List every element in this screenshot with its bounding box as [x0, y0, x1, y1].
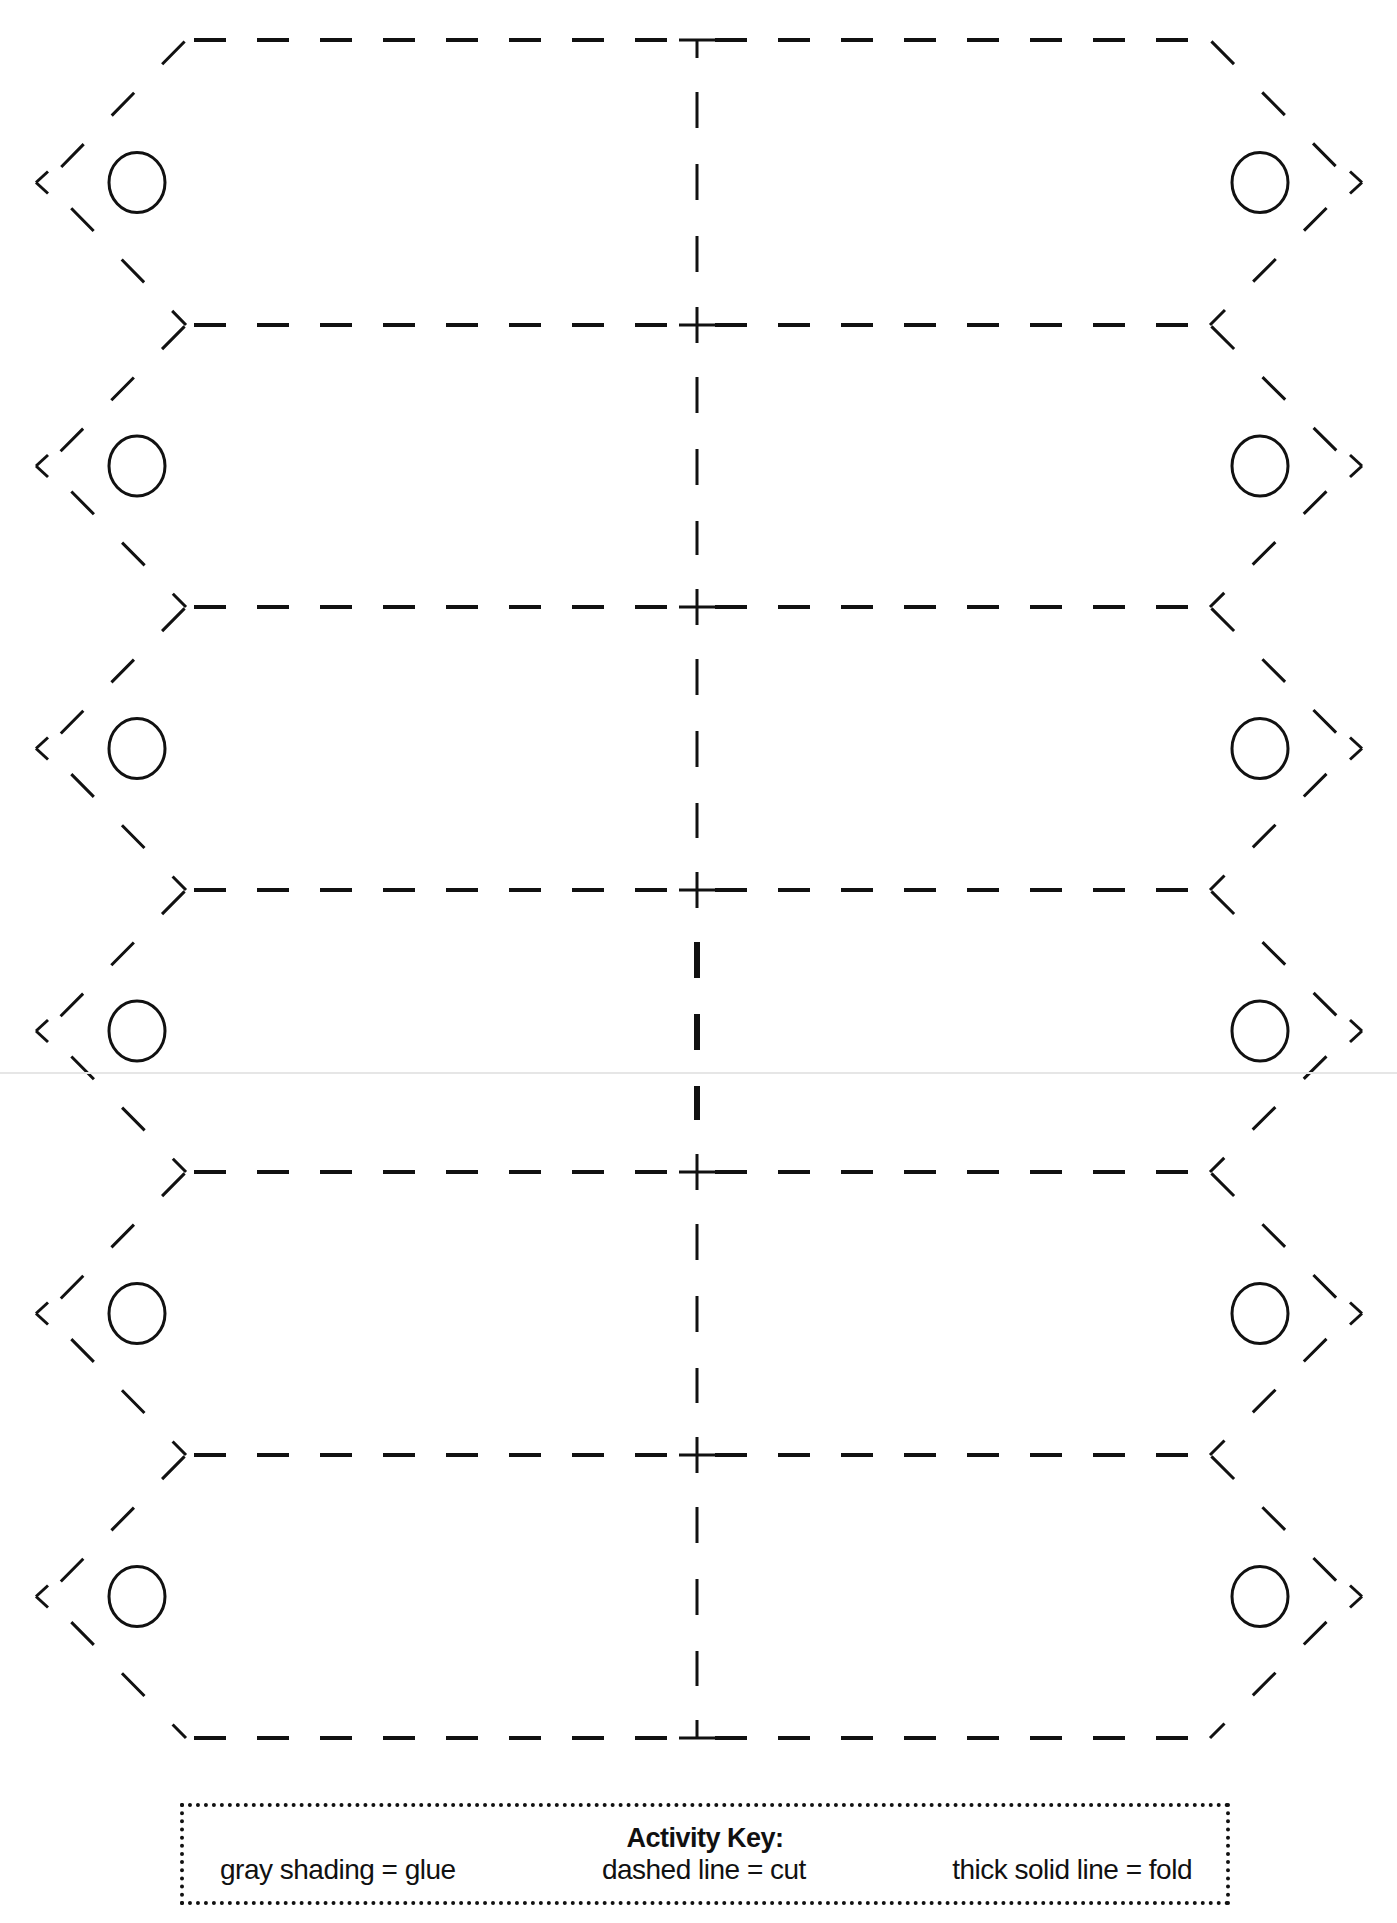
paper-crease: [0, 1072, 1397, 1074]
tag-point-left: [36, 1314, 48, 1325]
hole-circle-right: [1232, 153, 1288, 213]
hole-circle-left: [109, 719, 165, 779]
tag-point-left: [36, 1031, 48, 1042]
activity-key-box: Activity Key: gray shading = glue dashed…: [180, 1803, 1230, 1905]
tag-point-right: [1350, 1303, 1362, 1314]
tag-point-left: [36, 183, 48, 194]
tag-point-left: [36, 172, 48, 183]
key-fold: thick solid line = fold: [952, 1853, 1192, 1887]
tag-template-sheet: [0, 0, 1397, 1923]
tag-point-right: [1350, 172, 1362, 183]
hole-circle-left: [109, 1284, 165, 1344]
activity-key-legend: gray shading = glue dashed line = cut th…: [184, 1853, 1226, 1887]
tag-point-left: [36, 1586, 48, 1597]
hole-circle-left: [109, 436, 165, 496]
tag-point-left: [36, 466, 48, 477]
tag-point-right: [1350, 738, 1362, 749]
tag-point-right: [1350, 1586, 1362, 1597]
tag-point-left: [36, 1597, 48, 1608]
hole-circle-right: [1232, 1567, 1288, 1627]
tag-point-right: [1350, 183, 1362, 194]
tag-point-left: [36, 1020, 48, 1031]
tag-point-left: [36, 455, 48, 466]
hole-circle-left: [109, 153, 165, 213]
hole-circle-right: [1232, 1284, 1288, 1344]
tag-point-left: [36, 749, 48, 760]
hole-circle-right: [1232, 1001, 1288, 1061]
tag-point-right: [1350, 1597, 1362, 1608]
tag-point-right: [1350, 749, 1362, 760]
hole-circle-right: [1232, 719, 1288, 779]
hole-circle-right: [1232, 436, 1288, 496]
tag-point-right: [1350, 466, 1362, 477]
tag-point-right: [1350, 1314, 1362, 1325]
hole-circle-left: [109, 1001, 165, 1061]
tag-point-left: [36, 738, 48, 749]
tag-point-left: [36, 1303, 48, 1314]
key-cut: dashed line = cut: [602, 1853, 806, 1887]
tag-point-right: [1350, 1020, 1362, 1031]
tag-point-right: [1350, 455, 1362, 466]
hole-circle-left: [109, 1567, 165, 1627]
key-glue: gray shading = glue: [220, 1853, 456, 1887]
activity-key-title: Activity Key:: [184, 1823, 1226, 1853]
tag-point-right: [1350, 1031, 1362, 1042]
